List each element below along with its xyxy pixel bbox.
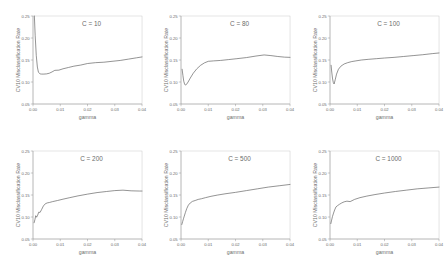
panel-title: C = 100 [377,20,400,27]
y-tick-label: 0.25 [21,14,30,19]
y-tick-label: 0.10 [318,80,327,85]
data-series-line [182,55,290,85]
data-series-line [330,187,438,224]
y-tick-label: 0.05 [318,236,327,241]
x-tick-label: 0.03 [111,107,120,112]
data-series-line [182,184,290,224]
y-tick-label: 0.10 [170,214,179,219]
x-tick-label: 0.02 [380,242,389,247]
y-tick-label: 0.25 [170,14,179,19]
y-tick-label: 0.20 [318,36,327,41]
plot-frame [330,151,439,239]
x-tick-label: 0.02 [380,107,389,112]
chart-panel: 0.050.100.150.200.250.000.010.020.030.04… [297,0,445,135]
x-tick-label: 0.00 [29,242,38,247]
x-axis-label: gamma [79,114,96,120]
y-tick-label: 0.10 [170,80,179,85]
plot-frame [181,151,290,239]
y-tick-label: 0.25 [21,148,30,153]
y-tick-label: 0.15 [170,58,179,63]
chart-panel: 0.050.100.150.200.250.000.010.020.030.04… [148,0,296,135]
x-axis-label: gamma [79,249,96,255]
x-tick-label: 0.02 [232,107,241,112]
y-tick-label: 0.20 [21,170,30,175]
chart-panel: 0.050.100.150.200.250.000.010.020.030.04… [297,135,445,269]
y-axis-label: CV10 Misclassification Rate [312,28,318,92]
y-tick-label: 0.05 [170,236,179,241]
x-tick-label: 0.01 [205,242,214,247]
x-axis-label: gamma [227,114,244,120]
x-tick-label: 0.04 [435,242,444,247]
x-tick-label: 0.00 [177,242,186,247]
x-tick-label: 0.00 [326,107,335,112]
x-tick-label: 0.01 [205,107,214,112]
y-tick-label: 0.05 [318,102,327,107]
y-tick-label: 0.10 [318,214,327,219]
y-tick-label: 0.15 [318,192,327,197]
y-tick-label: 0.25 [318,148,327,153]
y-axis-label: CV10 Misclassification Rate [163,162,169,226]
chart-grid: 0.050.100.150.200.250.000.010.020.030.04… [0,0,445,269]
x-tick-label: 0.03 [111,242,120,247]
panel-title: C = 500 [229,155,252,162]
panel-title: C = 1000 [375,155,402,162]
y-tick-label: 0.20 [318,170,327,175]
y-tick-label: 0.10 [21,80,30,85]
y-tick-label: 0.20 [170,170,179,175]
x-tick-label: 0.02 [232,242,241,247]
x-tick-label: 0.00 [29,107,38,112]
x-axis-label: gamma [376,114,393,120]
x-tick-label: 0.03 [407,107,416,112]
x-tick-label: 0.04 [286,107,295,112]
plot-frame [33,151,142,239]
panel-title: C = 10 [82,20,101,27]
x-tick-label: 0.01 [353,107,362,112]
y-tick-label: 0.15 [21,192,30,197]
y-tick-label: 0.05 [21,236,30,241]
chart-panel: 0.050.100.150.200.250.000.010.020.030.04… [148,135,296,269]
plot-frame [33,16,142,104]
data-series-line [34,190,142,223]
x-tick-label: 0.04 [138,107,147,112]
y-tick-label: 0.20 [170,36,179,41]
x-axis-label: gamma [376,249,393,255]
y-axis-label: CV10 Misclassification Rate [163,28,169,92]
x-tick-label: 0.04 [435,107,444,112]
y-tick-label: 0.25 [318,14,327,19]
x-tick-label: 0.00 [326,242,335,247]
x-tick-label: 0.03 [259,242,268,247]
y-axis-label: CV10 Misclassification Rate [312,162,318,226]
x-tick-label: 0.01 [353,242,362,247]
plot-frame [181,16,290,104]
plot-frame [330,16,439,104]
y-tick-label: 0.25 [170,148,179,153]
y-tick-label: 0.15 [21,58,30,63]
panel-title: C = 200 [80,155,103,162]
chart-panel: 0.050.100.150.200.250.000.010.020.030.04… [0,0,148,135]
y-tick-label: 0.10 [21,214,30,219]
chart-panel: 0.050.100.150.200.250.000.010.020.030.04… [0,135,148,269]
y-tick-label: 0.15 [170,192,179,197]
x-tick-label: 0.04 [138,242,147,247]
y-axis-label: CV10 Misclassification Rate [15,162,21,226]
x-tick-label: 0.04 [286,242,295,247]
panel-title: C = 80 [230,20,249,27]
data-series-line [331,53,439,84]
x-axis-label: gamma [227,249,244,255]
y-axis-label: CV10 Misclassification Rate [15,28,21,92]
y-tick-label: 0.05 [21,102,30,107]
y-tick-label: 0.05 [170,102,179,107]
x-tick-label: 0.01 [56,242,65,247]
y-tick-label: 0.15 [318,58,327,63]
x-tick-label: 0.00 [177,107,186,112]
x-tick-label: 0.01 [56,107,65,112]
x-tick-label: 0.03 [407,242,416,247]
y-tick-label: 0.20 [21,36,30,41]
x-tick-label: 0.02 [83,242,92,247]
x-tick-label: 0.03 [259,107,268,112]
x-tick-label: 0.02 [83,107,92,112]
